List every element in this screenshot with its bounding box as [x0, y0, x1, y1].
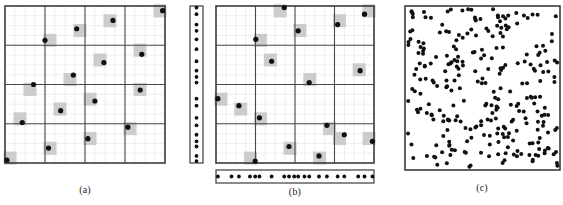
data-point — [324, 123, 329, 128]
data-point — [522, 14, 526, 18]
data-point — [543, 106, 547, 110]
left-margin-tick-point — [195, 37, 199, 41]
data-point — [125, 125, 130, 130]
data-point — [429, 62, 433, 66]
data-point — [438, 30, 442, 34]
data-point — [71, 72, 76, 77]
data-point — [503, 16, 507, 20]
panel-b-caption: (b) — [245, 186, 345, 197]
data-point — [555, 164, 559, 168]
left-margin-tick-point — [195, 154, 199, 158]
data-point — [410, 28, 414, 32]
bottom-margin-tick-point — [282, 175, 286, 179]
figure-container: (a) (b) (c) — [0, 0, 563, 205]
data-point — [488, 134, 492, 138]
data-point — [215, 96, 220, 101]
data-point — [4, 158, 9, 163]
data-point — [532, 102, 536, 106]
data-point — [296, 28, 301, 33]
bottom-margin-tick-point — [325, 175, 329, 179]
plot-area-b — [214, 4, 375, 164]
data-point — [440, 23, 444, 27]
data-point — [489, 118, 493, 122]
plot-area-a — [4, 4, 167, 164]
data-point — [479, 57, 483, 61]
left-margin-tick-point — [195, 139, 199, 143]
bottom-margin-tick-point — [307, 175, 311, 179]
bottom-margin-strip — [216, 170, 374, 183]
data-point — [494, 116, 498, 120]
data-point — [253, 159, 258, 164]
data-point — [493, 96, 497, 100]
data-point — [538, 95, 542, 99]
data-point — [555, 60, 559, 64]
panel-c — [385, 0, 563, 178]
data-point — [498, 72, 502, 76]
data-point — [486, 118, 490, 122]
data-point — [491, 7, 495, 11]
data-point — [528, 141, 532, 145]
bottom-margin-tick-point — [237, 175, 241, 179]
data-point — [506, 135, 510, 139]
data-point — [536, 13, 540, 17]
data-point — [537, 147, 541, 151]
data-point — [550, 32, 554, 36]
data-point — [554, 14, 558, 18]
data-point — [424, 15, 428, 19]
data-point — [446, 9, 450, 13]
data-point — [515, 154, 519, 158]
data-point — [552, 80, 556, 84]
data-point — [484, 102, 488, 106]
left-margin-tick-point — [195, 97, 199, 101]
data-point — [455, 114, 459, 118]
data-point — [414, 67, 418, 71]
bottom-margin-tick-point — [248, 175, 252, 179]
data-point — [412, 73, 416, 77]
data-point — [498, 31, 502, 35]
data-point — [546, 113, 550, 117]
data-point — [519, 152, 523, 156]
bottom-margin-tick-point — [303, 175, 307, 179]
data-point — [160, 8, 165, 13]
left-margin-tick-point — [195, 12, 199, 16]
data-point — [418, 107, 422, 111]
left-margin-tick-point — [195, 145, 199, 149]
data-point — [508, 90, 512, 94]
data-point — [435, 84, 439, 88]
data-point — [409, 143, 413, 147]
data-point — [42, 38, 47, 43]
data-point — [462, 99, 466, 103]
data-point — [454, 118, 458, 122]
panel-b-plot — [185, 0, 385, 195]
data-point — [362, 12, 367, 17]
data-point — [490, 111, 494, 115]
data-point — [425, 154, 429, 158]
data-point — [515, 149, 519, 153]
plot-area-c — [405, 6, 560, 170]
bottom-margin-tick-point — [296, 175, 300, 179]
data-point — [429, 16, 433, 20]
data-point — [458, 86, 462, 90]
data-point — [445, 161, 449, 165]
data-point — [536, 53, 540, 57]
data-point — [525, 81, 529, 85]
data-point — [552, 152, 556, 156]
data-point — [495, 46, 499, 50]
data-point — [487, 154, 491, 158]
data-point — [531, 13, 535, 17]
data-point — [552, 75, 556, 79]
bottom-margin-tick-point — [258, 175, 262, 179]
data-point — [491, 34, 495, 38]
data-point — [418, 77, 422, 81]
data-point — [502, 135, 506, 139]
data-point — [406, 99, 410, 103]
data-point — [460, 9, 464, 13]
data-point — [473, 126, 477, 130]
data-point — [540, 114, 544, 118]
data-point — [479, 151, 483, 155]
bottom-margin-tick-point — [216, 175, 220, 179]
data-point — [468, 127, 472, 131]
data-point — [446, 118, 450, 122]
data-point — [454, 47, 458, 51]
data-point — [479, 123, 483, 127]
